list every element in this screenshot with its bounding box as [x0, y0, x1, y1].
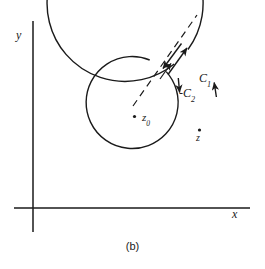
x-axis-label: x: [232, 208, 237, 220]
outer-circle-direction-arrow: [214, 83, 216, 98]
point-z-label: z: [196, 133, 200, 143]
figure-caption: (b): [0, 240, 265, 252]
point-z0-dot: [133, 115, 136, 118]
complex-plane-diagram: [0, 0, 265, 269]
contour-c1-label: C1: [199, 72, 211, 88]
contour-c2-label: -C2: [179, 87, 195, 103]
point-z0-label: z0: [142, 112, 150, 126]
axes-group: [14, 21, 250, 232]
outer-contour-c1: [47, 0, 216, 97]
contour-c1-subscript: 1: [207, 80, 211, 89]
figure-container: y x C1 -C2 z0 z (b): [0, 0, 265, 269]
contour-c2-subscript: 2: [191, 95, 195, 104]
y-axis-label: y: [16, 29, 21, 41]
outer-circle-arc: [47, 0, 203, 81]
point-z0-subscript: 0: [146, 119, 150, 128]
